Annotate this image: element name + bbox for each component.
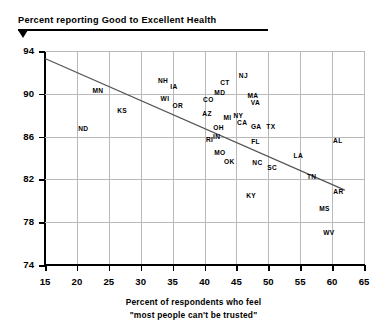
x-tick-label: 25 bbox=[96, 276, 122, 287]
y-tick-label: 94 bbox=[8, 45, 34, 56]
data-point-label: MS bbox=[319, 205, 330, 212]
y-tick-label: 82 bbox=[8, 173, 34, 184]
x-tick bbox=[300, 265, 302, 271]
data-points-layer: NDMNKSNHWIIAORCOAZRIOHINMOMDCTMIOKNYCANJ… bbox=[45, 51, 364, 265]
x-tick-label: 30 bbox=[128, 276, 154, 287]
data-point-label: CA bbox=[237, 118, 247, 125]
data-point-label: GA bbox=[251, 122, 262, 129]
data-point-label: IN bbox=[213, 132, 220, 139]
data-point-label: AR bbox=[333, 188, 343, 195]
title-underline bbox=[18, 29, 268, 31]
x-tick-label: 50 bbox=[255, 276, 281, 287]
x-tick-label: 15 bbox=[32, 276, 58, 287]
x-tick-label: 60 bbox=[319, 276, 345, 287]
data-point-label: SC bbox=[267, 163, 277, 170]
data-point-label: KY bbox=[246, 192, 256, 199]
x-tick bbox=[236, 265, 238, 271]
x-tick-label: 35 bbox=[160, 276, 186, 287]
data-point-label: OK bbox=[224, 158, 235, 165]
x-tick bbox=[364, 265, 366, 271]
x-axis-title-line1: Percent of respondents who feel bbox=[0, 296, 387, 309]
y-tick-label: 86 bbox=[8, 131, 34, 142]
data-point-label: OH bbox=[213, 123, 224, 130]
data-point-label: FL bbox=[251, 137, 260, 144]
gridline-vertical bbox=[364, 51, 365, 264]
down-triangle-icon bbox=[18, 30, 28, 38]
y-tick-label: 78 bbox=[8, 216, 34, 227]
data-point-label: CO bbox=[203, 96, 214, 103]
x-tick-label: 20 bbox=[64, 276, 90, 287]
data-point-label: MN bbox=[92, 86, 103, 93]
data-point-label: NJ bbox=[239, 71, 248, 78]
x-tick bbox=[45, 265, 47, 271]
data-point-label: AZ bbox=[202, 110, 212, 117]
data-point-label: TN bbox=[307, 173, 317, 180]
x-tick bbox=[109, 265, 111, 271]
scatter-plot-figure: Percent reporting Good to Excellent Heal… bbox=[0, 0, 387, 331]
x-axis-title: Percent of respondents who feel "most pe… bbox=[0, 296, 387, 321]
x-tick bbox=[77, 265, 79, 271]
data-point-label: TX bbox=[266, 122, 275, 129]
x-tick bbox=[173, 265, 175, 271]
x-tick-label: 45 bbox=[223, 276, 249, 287]
chart-title-block: Percent reporting Good to Excellent Heal… bbox=[18, 14, 274, 42]
data-point-label: OR bbox=[172, 101, 183, 108]
data-point-label: MI bbox=[223, 114, 231, 121]
y-tick-label: 74 bbox=[8, 259, 34, 270]
data-point-label: MA bbox=[248, 91, 259, 98]
data-point-label: LA bbox=[294, 151, 304, 158]
x-tick bbox=[332, 265, 334, 271]
x-tick-label: 65 bbox=[351, 276, 377, 287]
data-point-label: CT bbox=[220, 79, 230, 86]
data-point-label: VA bbox=[251, 99, 260, 106]
data-point-label: WV bbox=[323, 228, 334, 235]
x-tick-label: 55 bbox=[287, 276, 313, 287]
data-point-label: KS bbox=[117, 106, 127, 113]
data-point-label: NH bbox=[158, 76, 168, 83]
x-axis-title-line2: "most people can't be trusted" bbox=[0, 309, 387, 322]
y-tick bbox=[39, 265, 45, 267]
x-tick bbox=[141, 265, 143, 271]
x-tick bbox=[205, 265, 207, 271]
data-point-label: MD bbox=[214, 88, 225, 95]
x-tick-label: 40 bbox=[192, 276, 218, 287]
data-point-label: WI bbox=[161, 95, 170, 102]
data-point-label: AL bbox=[333, 136, 343, 143]
data-point-label: IA bbox=[170, 83, 177, 90]
data-point-label: MO bbox=[214, 148, 225, 155]
data-point-label: NC bbox=[252, 159, 262, 166]
page-title: Percent reporting Good to Excellent Heal… bbox=[18, 14, 274, 26]
plot-area: NDMNKSNHWIIAORCOAZRIOHINMOMDCTMIOKNYCANJ… bbox=[45, 51, 364, 265]
y-tick-label: 90 bbox=[8, 88, 34, 99]
x-tick bbox=[268, 265, 270, 271]
data-point-label: ND bbox=[78, 125, 88, 132]
